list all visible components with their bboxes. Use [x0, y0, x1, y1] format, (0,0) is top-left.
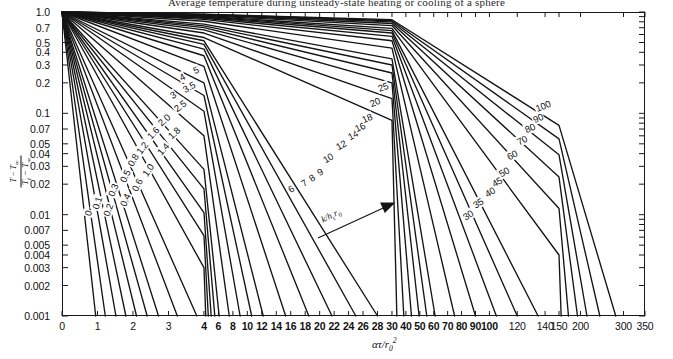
x-axis-tick-labels: 0123468101214161820222426283040506070809… — [0, 0, 673, 359]
x-tick-label: 150 — [551, 320, 568, 332]
x-tick-label: 2 — [130, 320, 136, 332]
x-tick-label: 90 — [470, 320, 481, 332]
x-tick-label: 28 — [372, 320, 383, 332]
x-tick-label: 30 — [386, 320, 397, 332]
x-tick-label: 10 — [242, 320, 253, 332]
x-tick-label: 60 — [428, 320, 439, 332]
x-tick-label: 18 — [300, 320, 311, 332]
chart-figure: Average temperature during unsteady-stat… — [0, 0, 673, 359]
y-axis-title: T − T∞ Ti − T∞ — [10, 126, 33, 218]
x-tick-label: 350 — [637, 320, 654, 332]
x-tick-label: 20 — [314, 320, 325, 332]
x-tick-label: 4 — [201, 320, 207, 332]
x-tick-label: 26 — [357, 320, 368, 332]
x-tick-label: 8 — [230, 320, 236, 332]
x-tick-label: 40 — [400, 320, 411, 332]
x-tick-label: 200 — [572, 320, 589, 332]
x-tick-label: 24 — [343, 320, 354, 332]
x-tick-label: 120 — [509, 320, 526, 332]
x-tick-label: 22 — [328, 320, 339, 332]
x-tick-label: 1 — [95, 320, 101, 332]
x-tick-label: 70 — [442, 320, 453, 332]
x-tick-label: 3 — [166, 320, 172, 332]
x-tick-label: 300 — [615, 320, 632, 332]
x-tick-label: 14 — [271, 320, 282, 332]
x-tick-label: 6 — [216, 320, 222, 332]
x-tick-label: 16 — [285, 320, 296, 332]
x-tick-label: 50 — [414, 320, 425, 332]
x-axis-title: ατ/r02 — [372, 336, 397, 353]
x-tick-label: 0 — [59, 320, 65, 332]
x-tick-label: 12 — [256, 320, 267, 332]
x-tick-label: 100 — [481, 320, 498, 332]
x-tick-label: 80 — [456, 320, 467, 332]
